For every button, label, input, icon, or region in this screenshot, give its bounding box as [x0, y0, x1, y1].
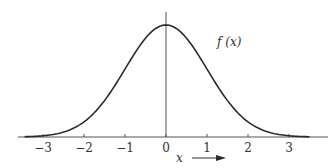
- x-tick-label: 1: [203, 141, 211, 155]
- x-axis-arrow-head: [216, 155, 226, 161]
- density-curve: [25, 25, 310, 137]
- x-tick-label: −3: [34, 141, 52, 155]
- x-tick-label: 0: [162, 141, 170, 155]
- curve-label: f (x): [216, 35, 242, 49]
- x-tick-label: −2: [75, 141, 93, 155]
- x-tick-label: −1: [116, 141, 134, 155]
- x-tick-label: 3: [285, 141, 293, 155]
- x-axis-label: x: [176, 151, 183, 165]
- x-tick-label: 2: [244, 141, 252, 155]
- normal-curve-chart: −3−2−10123 f (x) x: [0, 0, 336, 168]
